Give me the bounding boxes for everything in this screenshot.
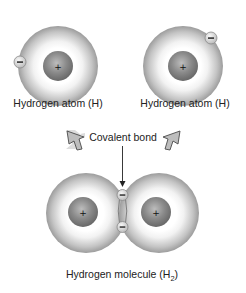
electron [205,32,217,44]
electron [14,56,26,68]
hydrogen-atom-left: + Hydrogen atom (H) [13,26,102,109]
hydrogen-atom-right: + Hydrogen atom (H) [140,26,229,109]
nucleus-plus-icon: + [152,208,160,218]
atom-label-right: Hydrogen atom (H) [140,97,229,109]
nucleus-plus-icon: + [79,208,87,218]
nucleus-plus-icon: + [54,62,62,72]
arrow-left-icon [66,130,85,150]
arrow-right-icon [163,131,180,150]
covalent-bond-label: Covalent bond [89,131,157,143]
bond-pointer-arrow-icon [120,146,126,187]
nucleus-plus-icon: + [179,62,187,72]
covalent-bond-diagram: + Hydrogen atom (H) + Hydrogen atom (H) … [0,0,246,293]
atom-label-left: Hydrogen atom (H) [13,97,102,109]
hydrogen-molecule: + + Hydrogen molecule (H2) [46,173,199,283]
molecule-label: Hydrogen molecule (H2) [66,268,178,283]
